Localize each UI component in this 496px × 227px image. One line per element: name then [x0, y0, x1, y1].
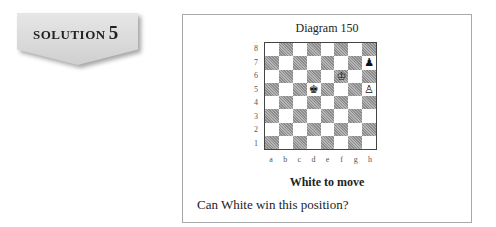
black-pawn-icon: ♟ [364, 57, 374, 68]
square-a5 [265, 83, 279, 96]
square-g6 [348, 70, 362, 83]
diagram-panel: Diagram 150 87654321 ♟♔♚♙ abcdefgh White… [182, 14, 472, 223]
square-e8 [321, 43, 335, 56]
square-e6 [321, 70, 335, 83]
square-f2 [334, 123, 348, 136]
square-b7 [279, 56, 293, 69]
square-g7 [348, 56, 362, 69]
square-b2 [279, 123, 293, 136]
file-label: d [306, 154, 320, 164]
file-label: h [363, 154, 377, 164]
square-a4 [265, 96, 279, 109]
square-f7 [334, 56, 348, 69]
square-a1 [265, 136, 279, 149]
white-pawn-icon: ♙ [364, 84, 374, 95]
square-h8 [362, 43, 376, 56]
badge-word: SOLUTION [33, 27, 106, 42]
solution-badge: SOLUTION5 [17, 13, 138, 65]
square-d5: ♚ [307, 83, 321, 96]
square-e3 [321, 109, 335, 122]
square-b5 [279, 83, 293, 96]
square-d4 [307, 96, 321, 109]
square-b8 [279, 43, 293, 56]
square-b4 [279, 96, 293, 109]
square-f8 [334, 43, 348, 56]
rank-label: 8 [252, 42, 260, 56]
square-f5 [334, 83, 348, 96]
rank-label: 3 [252, 110, 260, 124]
rank-label: 4 [252, 96, 260, 110]
square-d8 [307, 43, 321, 56]
square-e4 [321, 96, 335, 109]
square-d3 [307, 109, 321, 122]
square-a7 [265, 56, 279, 69]
file-label: c [292, 154, 306, 164]
square-g2 [348, 123, 362, 136]
square-g1 [348, 136, 362, 149]
square-h1 [362, 136, 376, 149]
rank-label: 2 [252, 123, 260, 137]
to-move-caption: White to move [183, 175, 471, 190]
rank-labels: 87654321 [252, 42, 260, 150]
square-f6: ♔ [334, 70, 348, 83]
square-h2 [362, 123, 376, 136]
square-e7 [321, 56, 335, 69]
square-a8 [265, 43, 279, 56]
square-b6 [279, 70, 293, 83]
square-f3 [334, 109, 348, 122]
square-b1 [279, 136, 293, 149]
rank-label: 7 [252, 56, 260, 70]
square-d2 [307, 123, 321, 136]
file-label: a [264, 154, 278, 164]
file-label: b [278, 154, 292, 164]
square-g3 [348, 109, 362, 122]
square-b3 [279, 109, 293, 122]
square-d6 [307, 70, 321, 83]
question-text: Can White win this position? [197, 197, 348, 213]
square-f4 [334, 96, 348, 109]
square-e5 [321, 83, 335, 96]
square-c1 [293, 136, 307, 149]
square-d1 [307, 136, 321, 149]
square-h6 [362, 70, 376, 83]
badge-label: SOLUTION5 [33, 22, 118, 44]
square-e1 [321, 136, 335, 149]
square-g8 [348, 43, 362, 56]
rank-label: 1 [252, 137, 260, 151]
square-c2 [293, 123, 307, 136]
square-f1 [334, 136, 348, 149]
file-label: f [335, 154, 349, 164]
square-c6 [293, 70, 307, 83]
square-c3 [293, 109, 307, 122]
black-king-icon: ♚ [309, 84, 319, 95]
square-c7 [293, 56, 307, 69]
badge-number: 5 [109, 22, 119, 43]
square-g5 [348, 83, 362, 96]
square-a6 [265, 70, 279, 83]
square-h3 [362, 109, 376, 122]
square-h5: ♙ [362, 83, 376, 96]
white-king-icon: ♔ [336, 71, 346, 82]
diagram-title: Diagram 150 [183, 21, 471, 36]
square-a3 [265, 109, 279, 122]
file-label: g [349, 154, 363, 164]
rank-label: 6 [252, 69, 260, 83]
chessboard: ♟♔♚♙ [264, 42, 377, 150]
square-d7 [307, 56, 321, 69]
file-label: e [321, 154, 335, 164]
square-h4 [362, 96, 376, 109]
rank-label: 5 [252, 83, 260, 97]
square-c8 [293, 43, 307, 56]
square-h7: ♟ [362, 56, 376, 69]
square-c4 [293, 96, 307, 109]
square-g4 [348, 96, 362, 109]
square-c5 [293, 83, 307, 96]
file-labels: abcdefgh [264, 154, 377, 164]
square-e2 [321, 123, 335, 136]
square-a2 [265, 123, 279, 136]
